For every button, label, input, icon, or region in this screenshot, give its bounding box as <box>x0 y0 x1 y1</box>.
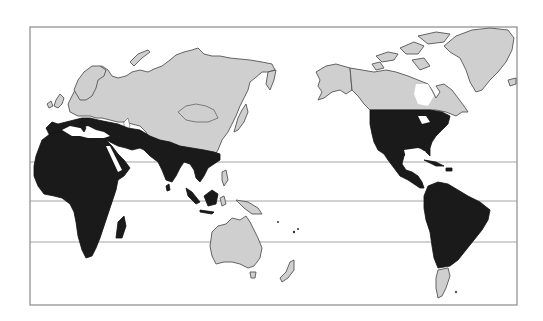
region-usa-mexico-central-america <box>370 110 450 188</box>
pacific-island <box>297 228 299 230</box>
region-arctic-islands-4 <box>372 62 384 70</box>
region-uk <box>54 94 64 108</box>
region-africa <box>34 132 130 258</box>
region-java <box>200 210 214 214</box>
pacific-island <box>277 221 279 223</box>
region-kamchatka <box>266 70 276 90</box>
region-arctic-islands-2 <box>400 42 424 54</box>
region-patagonia <box>436 268 450 298</box>
region-sumatra <box>186 188 200 204</box>
region-baffin-island <box>412 58 430 70</box>
region-hispaniola <box>446 168 452 171</box>
region-south-america <box>424 182 490 268</box>
region-australia <box>210 216 262 268</box>
region-borneo <box>204 190 218 206</box>
region-new-guinea <box>236 200 262 214</box>
region-philippines <box>222 170 228 186</box>
region-arctic-islands-1 <box>376 52 398 62</box>
region-sulawesi <box>220 196 226 206</box>
region-novaya-zemlya <box>130 50 150 66</box>
region-madagascar <box>116 216 126 238</box>
region-alaska <box>316 64 352 100</box>
region-tasmania <box>250 272 256 278</box>
pacific-island <box>293 231 295 233</box>
region-falklands <box>455 291 457 293</box>
region-arctic-islands-3 <box>418 32 450 44</box>
region-canada <box>350 68 468 116</box>
world-map <box>0 0 543 321</box>
region-greenland <box>444 28 514 92</box>
region-sri-lanka <box>166 184 170 191</box>
sea-persian-gulf <box>128 150 136 158</box>
region-iceland <box>508 78 516 86</box>
region-ireland <box>47 101 53 108</box>
region-cuba <box>424 160 444 166</box>
region-new-zealand <box>280 260 294 282</box>
